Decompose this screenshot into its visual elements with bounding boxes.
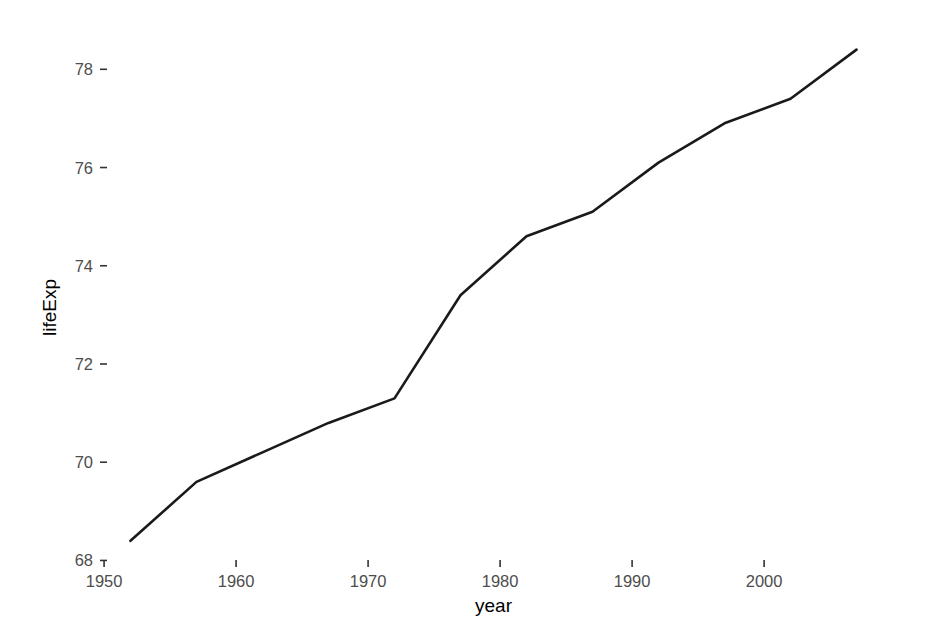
y-tick-label: 68 <box>75 551 93 569</box>
x-tick-label: 1970 <box>350 572 387 590</box>
chart-canvas: 687072747678 195019601970198019902000 li… <box>0 0 933 642</box>
x-tick-label: 2000 <box>746 572 783 590</box>
x-axis-title: year <box>475 595 513 616</box>
x-tick-label: 1990 <box>614 572 651 590</box>
y-axis-title: lifeExp <box>39 279 60 336</box>
x-tick-label: 1960 <box>218 572 255 590</box>
y-tick-label: 78 <box>75 60 93 78</box>
x-tick-label: 1950 <box>86 572 123 590</box>
line-chart-figure: 687072747678 195019601970198019902000 li… <box>0 0 933 642</box>
x-tick-label: 1980 <box>482 572 519 590</box>
y-tick-label: 76 <box>75 159 93 177</box>
y-tick-label: 72 <box>75 355 93 373</box>
y-tick-label: 74 <box>75 257 93 275</box>
y-tick-label: 70 <box>75 453 93 471</box>
